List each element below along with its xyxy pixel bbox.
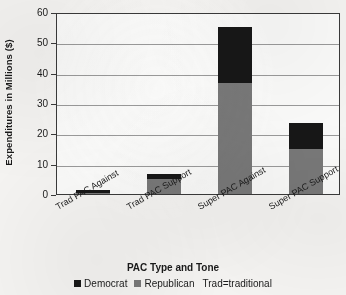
y-axis-title: Expenditures in Millions ($) (0, 0, 18, 205)
y-tick-label: 30 (18, 99, 48, 109)
bar-chart: Expenditures in Millions ($) 01020304050… (0, 0, 346, 295)
legend-swatch-democrat (74, 280, 81, 287)
legend-label-republican: Republican (144, 278, 194, 289)
y-axis-title-text: Expenditures in Millions ($) (3, 39, 14, 165)
plot-area (56, 13, 340, 195)
legend-item-democrat: Democrat (74, 278, 127, 289)
y-tick-label: 60 (18, 8, 48, 18)
legend-label-democrat: Democrat (84, 278, 127, 289)
y-tick-label: 20 (18, 129, 48, 139)
legend-note: Trad=traditional (203, 278, 272, 289)
legend-item-republican: Republican (134, 278, 194, 289)
y-tick-label: 50 (18, 38, 48, 48)
bars-layer (57, 14, 339, 194)
x-axis-title: PAC Type and Tone (0, 262, 346, 273)
bar-segment-democrat (289, 123, 323, 149)
y-tick-label: 10 (18, 160, 48, 170)
bar-group (218, 27, 252, 194)
legend-swatch-republican (134, 280, 141, 287)
y-tick-label: 0 (18, 190, 48, 200)
y-tick-mark (51, 195, 56, 196)
bar-segment-democrat (218, 27, 252, 83)
chart-legend: Democrat Republican Trad=traditional (0, 278, 346, 289)
y-tick-label: 40 (18, 69, 48, 79)
